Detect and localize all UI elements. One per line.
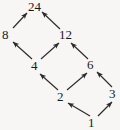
- node-label-8: 8: [2, 28, 9, 41]
- node-label-4: 4: [31, 59, 38, 72]
- edge-arrow-1-to-3: [98, 102, 112, 116]
- edge-arrow-2-to-4: [40, 74, 58, 90]
- edge-arrow-12-to-24: [42, 12, 60, 29]
- node-label-1: 1: [88, 116, 95, 129]
- node-label-2: 2: [57, 90, 64, 103]
- edge-arrow-6-to-12: [71, 43, 88, 59]
- edge-arrow-3-to-6: [97, 72, 112, 87]
- node-label-3: 3: [109, 87, 116, 100]
- node-label-24: 24: [28, 0, 41, 13]
- edge-arrow-4-to-8: [13, 42, 32, 59]
- hasse-diagram: 2481246231: [0, 0, 120, 130]
- edge-layer: [0, 0, 120, 130]
- edge-arrow-2-to-6: [67, 73, 87, 90]
- node-label-12: 12: [59, 28, 72, 41]
- edge-arrow-1-to-2: [68, 103, 90, 116]
- edge-arrow-8-to-24: [13, 13, 27, 28]
- edge-arrow-4-to-12: [41, 43, 59, 59]
- node-label-6: 6: [87, 58, 94, 71]
